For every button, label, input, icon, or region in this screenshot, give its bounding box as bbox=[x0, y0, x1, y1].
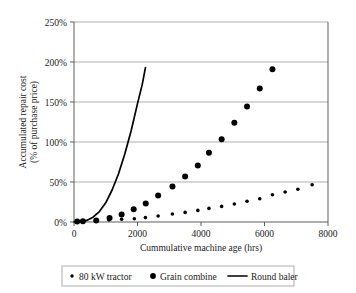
y-axis-title-line2: (% of purchase price) bbox=[29, 81, 40, 163]
data-point bbox=[93, 217, 99, 223]
y-tick-labels: 250% 200% 150% 100% 50% 0% bbox=[45, 18, 67, 228]
data-point bbox=[143, 201, 149, 207]
data-point bbox=[296, 187, 300, 191]
y-tick-marks bbox=[70, 22, 74, 222]
x-tick-label-8000: 8000 bbox=[319, 229, 338, 239]
data-point bbox=[231, 120, 237, 126]
data-point bbox=[119, 211, 125, 217]
data-point bbox=[120, 217, 124, 221]
data-point bbox=[195, 163, 201, 169]
data-point bbox=[219, 136, 225, 142]
data-point bbox=[171, 212, 175, 216]
data-point bbox=[257, 85, 263, 91]
repair-cost-scatter-chart: 250% 200% 150% 100% 50% 0% 0 2000 4000 6… bbox=[0, 0, 356, 293]
data-point bbox=[155, 193, 161, 199]
data-point bbox=[107, 215, 113, 221]
data-point bbox=[244, 103, 250, 109]
x-tick-labels: 0 2000 4000 6000 8000 bbox=[72, 229, 338, 239]
y-tick-label-100: 100% bbox=[45, 138, 67, 148]
chart-figure: 250% 200% 150% 100% 50% 0% 0 2000 4000 6… bbox=[0, 0, 356, 293]
y-tick-label-250: 250% bbox=[45, 18, 67, 28]
x-tick-marks bbox=[74, 222, 328, 226]
x-axis-title: Cummulative machine age (hrs) bbox=[140, 243, 262, 254]
data-point bbox=[133, 217, 137, 221]
data-point bbox=[245, 199, 249, 203]
y-tick-label-0: 0% bbox=[54, 218, 67, 228]
x-tick-label-2000: 2000 bbox=[128, 229, 147, 239]
x-tick-label-4000: 4000 bbox=[192, 229, 211, 239]
y-tick-label-50: 50% bbox=[50, 178, 68, 188]
small-dot-glyph-icon bbox=[70, 274, 73, 277]
data-point bbox=[310, 183, 314, 187]
data-point bbox=[283, 190, 287, 194]
y-tick-label-200: 200% bbox=[45, 58, 67, 68]
y-tick-label-150: 150% bbox=[45, 98, 67, 108]
large-dot-glyph-icon bbox=[150, 273, 156, 279]
data-point bbox=[258, 197, 262, 201]
legend-label-combine: Grain combine bbox=[160, 272, 217, 282]
x-tick-label-0: 0 bbox=[72, 229, 77, 239]
chart-legend: 80 kW tractor Grain combine Round baler bbox=[62, 266, 299, 286]
x-tick-label-6000: 6000 bbox=[255, 229, 274, 239]
legend-label-baler: Round baler bbox=[251, 272, 299, 282]
y-axis-title-line1: Accumulated repair cost bbox=[18, 75, 28, 168]
data-point bbox=[269, 66, 275, 72]
data-point bbox=[207, 207, 211, 211]
data-point bbox=[156, 214, 160, 218]
data-point bbox=[144, 216, 148, 220]
legend-label-tractor: 80 kW tractor bbox=[79, 272, 132, 282]
data-point bbox=[131, 206, 137, 212]
data-point bbox=[220, 205, 224, 209]
data-point bbox=[182, 173, 188, 179]
plot-background bbox=[74, 22, 328, 222]
data-point bbox=[196, 209, 200, 213]
data-point bbox=[233, 202, 237, 206]
data-point bbox=[169, 183, 175, 189]
data-point bbox=[271, 193, 275, 197]
data-point bbox=[183, 211, 187, 215]
data-point bbox=[206, 150, 212, 156]
